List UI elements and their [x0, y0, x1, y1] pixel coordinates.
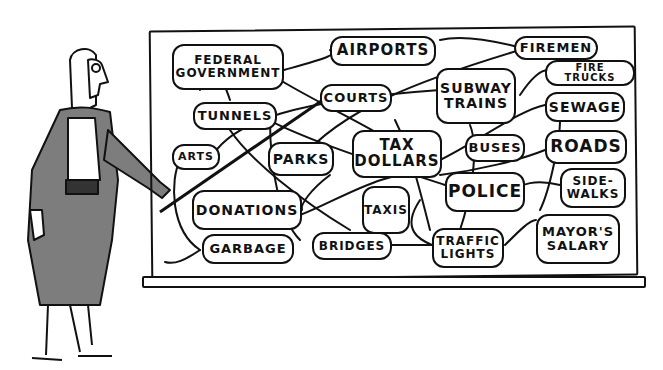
node-mayorssalary: MAYOR'S SALARY: [536, 214, 620, 264]
node-arts: ARTS: [172, 144, 220, 170]
node-parks: PARKS: [268, 142, 334, 176]
node-donations: DONATIONS: [192, 190, 302, 230]
node-airports: AIRPORTS: [330, 36, 436, 66]
node-federal: FEDERAL GOVERNMENT: [172, 44, 284, 90]
node-sidewalks: SIDE- WALKS: [560, 168, 626, 208]
node-firetrucks: FIRE TRUCKS: [545, 60, 635, 86]
node-garbage: GARBAGE: [202, 234, 294, 264]
node-trafficlights: TRAFFIC LIGHTS: [432, 228, 504, 268]
node-sewage: SEWAGE: [545, 92, 625, 122]
node-taxdollars: TAX DOLLARS: [352, 130, 442, 178]
cartoon-stage: FEDERAL GOVERNMENTAIRPORTSFIREMENFIRE TR…: [0, 0, 663, 370]
node-bridges: BRIDGES: [312, 232, 392, 260]
node-police: POLICE: [445, 172, 525, 212]
node-courts: COURTS: [320, 84, 392, 112]
board-ledge: [142, 276, 646, 288]
node-subway: SUBWAY TRAINS: [436, 68, 516, 124]
node-tunnels: TUNNELS: [193, 102, 277, 130]
node-buses: BUSES: [465, 134, 525, 162]
node-firemen: FIREMEN: [514, 36, 598, 60]
node-taxis: TAXIS: [362, 186, 410, 234]
node-roads: ROADS: [545, 130, 627, 164]
